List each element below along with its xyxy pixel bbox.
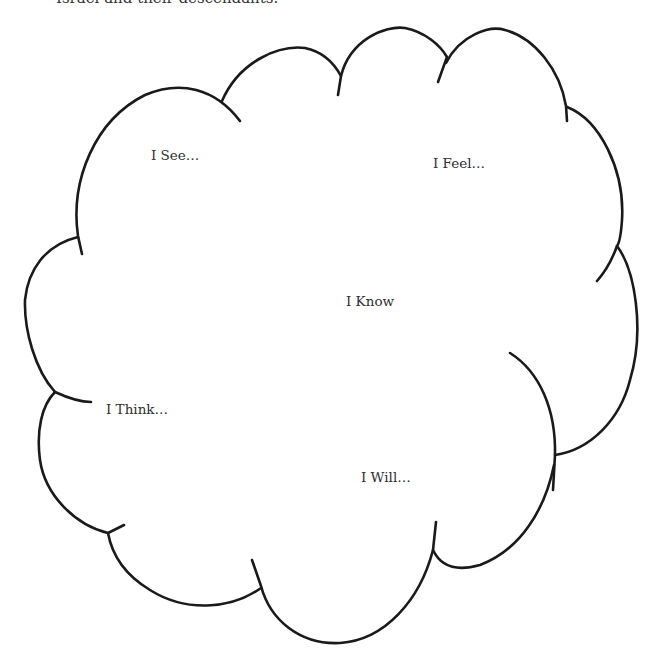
cloud-lobe [510, 353, 555, 490]
cloud-lobe [25, 237, 78, 392]
cloud-label-know: I Know [346, 293, 394, 309]
cloud-lobe [341, 28, 447, 82]
cloud-label-see: I See… [151, 147, 199, 163]
cloud-lobe [252, 550, 433, 643]
cloud-label-will: I Will… [361, 469, 411, 485]
cloud-lobe [222, 48, 341, 101]
cloud-label-feel: I Feel… [433, 155, 485, 171]
cloud-lobe [446, 29, 567, 121]
cloud-lobe [567, 107, 622, 281]
cloud-graphic [0, 0, 658, 667]
cloud-lobe [433, 465, 554, 568]
cloud-lobe [39, 392, 108, 533]
cloud-label-think: I Think… [106, 401, 168, 417]
cloud-lobe [77, 88, 240, 254]
cloud-lobe [108, 525, 261, 606]
cloud-lobe [555, 246, 637, 455]
